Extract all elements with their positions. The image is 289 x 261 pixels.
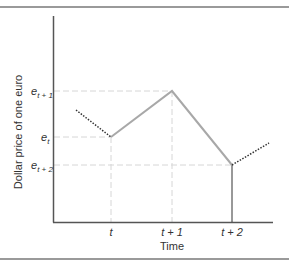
- xtick-t: t: [109, 226, 113, 238]
- xtick-t2: t + 2: [221, 226, 243, 238]
- dotted-before-t: [76, 110, 111, 137]
- x-tick-labels: t t + 1 t + 2: [109, 226, 242, 238]
- y-axis-label: Dollar price of one euro: [12, 75, 24, 189]
- ytick-e-t2: et + 2: [31, 159, 53, 174]
- guide-lines: [54, 91, 232, 222]
- y-tick-labels: et + 1 et et + 2: [31, 85, 53, 174]
- exchange-rate-chart: Dollar price of one euro et + 1 et et + …: [0, 0, 289, 261]
- bottom-divider: [0, 258, 289, 260]
- ytick-e-t: et: [41, 131, 50, 146]
- ytick-e-t1: et + 1: [31, 85, 53, 100]
- x-axis-label: Time: [160, 240, 184, 252]
- dotted-after-t2: [232, 143, 269, 165]
- xtick-t1: t + 1: [161, 226, 183, 238]
